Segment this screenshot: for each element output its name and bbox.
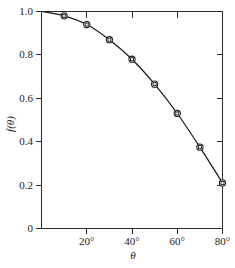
data-point-marker-inner [198, 146, 201, 149]
data-point-marker-inner [153, 83, 156, 86]
data-point-marker-inner [63, 14, 66, 17]
left-axis-ticks [36, 12, 42, 229]
y-tick-labels: 1.0 0.8 0.6 0.4 0.2 0 [19, 5, 33, 234]
y-tick-label-0-4: 0.4 [19, 135, 33, 147]
x-tick-label-40: 40° [124, 235, 139, 247]
data-point-marker-inner [85, 23, 88, 26]
axis-box [42, 12, 223, 229]
x-axis-title: θ [130, 249, 136, 261]
x-tick-label-20: 20° [79, 235, 94, 247]
right-axis-ticks [217, 55, 223, 185]
y-tick-label-0-2: 0.2 [19, 179, 33, 191]
y-tick-label-1-0: 1.0 [19, 5, 33, 17]
data-point-marker-inner [221, 181, 224, 184]
data-point-markers [61, 13, 226, 186]
bottom-axis-ticks [87, 229, 223, 235]
data-curve [42, 12, 223, 183]
y-tick-label-0: 0 [28, 222, 34, 234]
data-point-marker-inner [108, 38, 111, 41]
chart-svg: 1.0 0.8 0.6 0.4 0.2 0 20° 40° 60° 80° f(… [0, 0, 235, 268]
plot-frame [42, 12, 223, 229]
data-point-marker-inner [176, 112, 179, 115]
x-tick-label-80: 80° [215, 235, 230, 247]
x-tick-label-60: 60° [170, 235, 185, 247]
top-axis-ticks [87, 12, 223, 18]
y-tick-label-0-8: 0.8 [19, 48, 33, 60]
y-tick-label-0-6: 0.6 [19, 92, 33, 104]
y-axis-title: f(θ) [4, 116, 17, 132]
chart-figure: 1.0 0.8 0.6 0.4 0.2 0 20° 40° 60° 80° f(… [0, 0, 235, 268]
data-point-marker-inner [131, 58, 134, 61]
x-tick-labels: 20° 40° 60° 80° [79, 235, 230, 247]
